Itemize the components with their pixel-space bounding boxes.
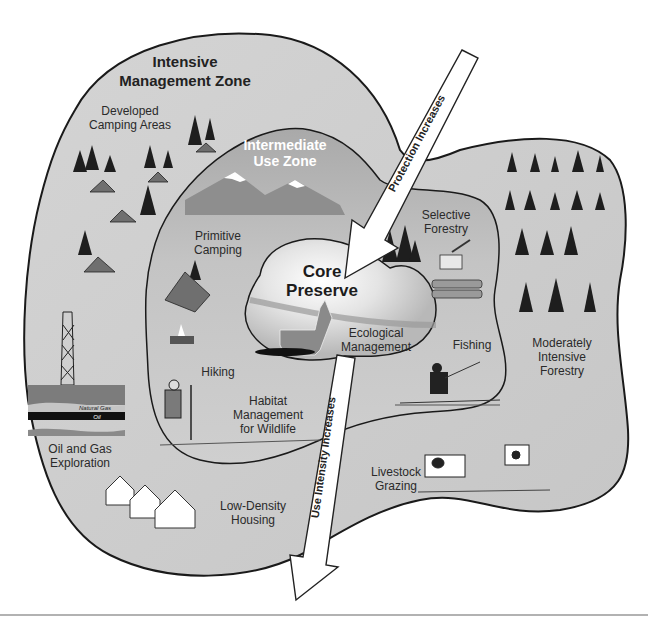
zoning-diagram: Protection Increases Use Intensity Incre… — [0, 0, 648, 626]
core-preserve-title-2: Preserve — [286, 281, 358, 300]
label-moderate-forestry-3: Forestry — [540, 364, 584, 378]
core-preserve-title-1: Core — [303, 262, 342, 281]
label-housing-1: Low-Density — [220, 499, 286, 513]
label-moderate-forestry-1: Moderately — [532, 336, 591, 350]
label-habitat-2: Management — [233, 408, 304, 422]
label-ecological-management-1: Ecological — [349, 326, 404, 340]
label-primitive-camping-1: Primitive — [195, 229, 241, 243]
intermediate-zone-title-2: Use Zone — [253, 153, 316, 169]
label-developed-camping-1: Developed — [101, 104, 158, 118]
label-housing-2: Housing — [231, 513, 275, 527]
label-fishing: Fishing — [453, 338, 492, 352]
label-moderate-forestry-2: Intensive — [538, 350, 586, 364]
label-livestock-1: Livestock — [371, 465, 422, 479]
intermediate-zone-title-1: Intermediate — [243, 137, 326, 153]
label-ecological-management-2: Management — [341, 340, 412, 354]
intensive-zone-title-2: Management Zone — [119, 72, 251, 89]
label-habitat-3: for Wildlife — [240, 422, 296, 436]
label-selective-forestry-2: Forestry — [424, 222, 468, 236]
label-livestock-2: Grazing — [375, 479, 417, 493]
label-habitat-1: Habitat — [249, 394, 288, 408]
label-oil-gas-2: Exploration — [50, 456, 110, 470]
label-selective-forestry-1: Selective — [422, 208, 471, 222]
label-developed-camping-2: Camping Areas — [89, 118, 171, 132]
label-hiking: Hiking — [201, 365, 234, 379]
intensive-zone-title-1: Intensive — [152, 53, 217, 70]
label-natural-gas: Natural Gas — [79, 405, 111, 411]
label-oil-gas-1: Oil and Gas — [48, 442, 111, 456]
label-oil: Oil — [93, 414, 101, 420]
label-primitive-camping-2: Camping — [194, 243, 242, 257]
